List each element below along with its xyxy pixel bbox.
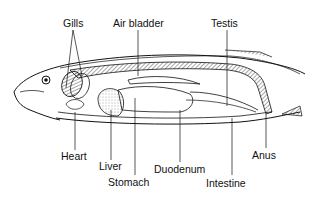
label-stomach: Stomach <box>108 177 149 188</box>
label-heart: Heart <box>61 151 87 162</box>
label-duodenum: Duodenum <box>154 164 205 175</box>
heart <box>66 100 84 110</box>
intestine <box>190 92 258 110</box>
label-anus: Anus <box>252 150 276 161</box>
air-bladder <box>128 77 200 84</box>
fish-anatomy-diagram: Gills Air bladder Testis Heart Liver Sto… <box>0 0 313 199</box>
stomach <box>118 87 193 112</box>
label-gills: Gills <box>63 18 83 29</box>
label-liver: Liver <box>99 161 122 172</box>
label-air-bladder: Air bladder <box>113 18 164 29</box>
label-intestine: Intestine <box>206 178 246 189</box>
tail-fin <box>282 106 302 116</box>
label-testis: Testis <box>211 18 238 29</box>
